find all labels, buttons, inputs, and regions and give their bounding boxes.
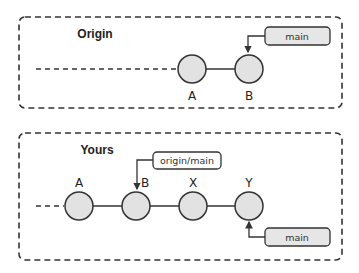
ref-main-label: main (285, 232, 309, 243)
yours-title: Yours (80, 143, 113, 157)
ref-origin-main: origin/main (137, 152, 221, 189)
ref-main-label: main (285, 31, 309, 42)
arrow-icon (249, 222, 265, 237)
ref-main: main (249, 222, 330, 246)
origin-title: Origin (77, 27, 112, 41)
commit-b (235, 55, 263, 83)
commit-x-label: X (189, 176, 197, 190)
origin-panel: Origin A B main (19, 17, 342, 108)
git-history-diagram: Origin A B main Yours A B X Y origin/mai… (0, 0, 359, 273)
commit-b (122, 192, 150, 220)
ref-main: main (248, 27, 330, 52)
commit-y-label: Y (244, 176, 253, 190)
yours-panel: Yours A B X Y origin/main main (19, 133, 342, 260)
commit-a (178, 55, 206, 83)
commit-a-label: A (188, 89, 197, 103)
ref-origin-main-label: origin/main (160, 155, 214, 166)
commit-a (65, 192, 93, 220)
commit-x (179, 192, 207, 220)
arrow-icon (248, 36, 265, 52)
commit-a-label: A (75, 176, 84, 190)
commit-y (235, 192, 263, 220)
commit-b-label: B (245, 89, 253, 103)
commit-b-label: B (141, 176, 149, 190)
